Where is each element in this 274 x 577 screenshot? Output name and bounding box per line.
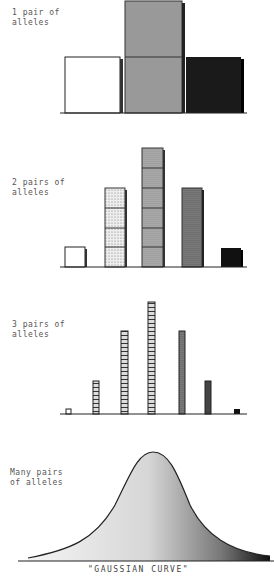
gaussian-caption: "GAUSSIAN CURVE"	[88, 565, 189, 574]
panel-1-bars	[60, 1, 247, 113]
genetics-chart	[0, 0, 274, 577]
gaussian-curve	[18, 452, 274, 561]
panel-2-bars	[60, 148, 247, 267]
panel-3-bars	[60, 302, 247, 414]
